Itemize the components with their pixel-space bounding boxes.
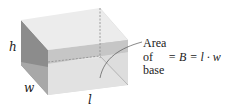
base-area-formula: = B = l · w (168, 50, 221, 64)
annotation-line-area: Area (143, 36, 167, 50)
width-label: w (24, 81, 35, 95)
prism (21, 8, 128, 95)
height-label: h (9, 40, 17, 54)
annotation-line-base: base (143, 63, 164, 77)
annotation-line-of: of (143, 50, 153, 64)
length-label: l (88, 93, 92, 106)
prism-diagram: h w l Area of base = B = l · w (0, 0, 225, 106)
